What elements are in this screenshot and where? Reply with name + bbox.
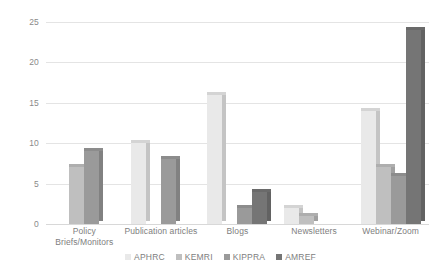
bar-chart: 0510152025 PolicyBriefs/MonitorsPublicat… — [0, 0, 441, 271]
bar-slot — [54, 22, 69, 224]
y-axis-tick-15: 15 — [29, 98, 39, 108]
bar-top-face — [69, 164, 84, 167]
bar-groups — [46, 22, 429, 224]
bar-slot — [69, 22, 84, 224]
legend-swatch-icon — [125, 254, 131, 260]
bar-top-face — [299, 213, 314, 216]
plot-area: 0510152025 — [46, 22, 429, 224]
bar-slot — [237, 22, 252, 224]
bar-slot — [391, 22, 406, 224]
bars — [352, 22, 429, 224]
x-axis-label: Webinar/Zoom — [352, 226, 429, 248]
bar-front-face — [391, 176, 406, 224]
bar-top-face — [391, 173, 406, 176]
legend-label: APHRC — [134, 252, 165, 262]
bar-slot — [376, 22, 391, 224]
bar-group — [123, 22, 200, 224]
bar-aphrc[interactable] — [131, 143, 146, 224]
legend-swatch-icon — [224, 254, 230, 260]
legend-item-amref[interactable]: AMREF — [276, 252, 316, 262]
bar-top-face — [84, 148, 99, 151]
bar-slot — [284, 22, 299, 224]
bar-slot — [84, 22, 99, 224]
x-axis-label: PolicyBriefs/Monitors — [46, 226, 123, 248]
bar-slot — [146, 22, 161, 224]
x-axis-label: Blogs — [199, 226, 276, 248]
bar-slot — [361, 22, 376, 224]
bar-group — [276, 22, 353, 224]
bar-top-face — [207, 92, 222, 95]
x-axis-label-line: Briefs/Monitors — [46, 237, 123, 248]
bar-slot — [299, 22, 314, 224]
y-axis-tick-20: 20 — [29, 57, 39, 67]
bar-kemri[interactable] — [376, 167, 391, 224]
legend-swatch-icon — [176, 254, 182, 260]
bar-kippra[interactable] — [84, 151, 99, 224]
bar-side-face — [421, 27, 425, 221]
bar-front-face — [299, 216, 314, 224]
bar-amref[interactable] — [252, 192, 267, 224]
bar-group — [46, 22, 123, 224]
bar-top-face — [361, 108, 376, 111]
bar-slot — [314, 22, 329, 224]
bar-side-face — [267, 189, 271, 221]
bar-slot — [406, 22, 421, 224]
bar-kemri[interactable] — [69, 167, 84, 224]
bar-slot — [207, 22, 222, 224]
x-axis-label-line: Blogs — [199, 226, 276, 237]
bar-slot — [222, 22, 237, 224]
bar-aphrc[interactable] — [207, 95, 222, 224]
y-axis-tick-5: 5 — [34, 179, 39, 189]
bar-kippra[interactable] — [161, 159, 176, 224]
bar-slot — [252, 22, 267, 224]
bar-kippra[interactable] — [391, 176, 406, 224]
bar-top-face — [406, 27, 421, 30]
bar-front-face — [69, 167, 84, 224]
bar-top-face — [161, 156, 176, 159]
bar-front-face — [84, 151, 99, 224]
chart-legend: APHRCKEMRIKIPPRAAMREF — [0, 252, 441, 262]
x-axis-labels: PolicyBriefs/MonitorsPublication article… — [46, 226, 429, 248]
bar-front-face — [207, 95, 222, 224]
legend-item-aphrc[interactable]: APHRC — [125, 252, 165, 262]
x-axis-label-line: Newsletters — [276, 226, 353, 237]
bar-slot — [161, 22, 176, 224]
legend-item-kemri[interactable]: KEMRI — [176, 252, 213, 262]
y-axis-tick-25: 25 — [29, 17, 39, 27]
legend-swatch-icon — [276, 254, 282, 260]
legend-label: KIPPRA — [233, 252, 265, 262]
legend-item-kippra[interactable]: KIPPRA — [224, 252, 265, 262]
bars — [199, 22, 276, 224]
bar-slot — [176, 22, 191, 224]
bar-front-face — [131, 143, 146, 224]
bar-front-face — [376, 167, 391, 224]
gridline-0: 0 — [46, 224, 429, 225]
bar-front-face — [237, 208, 252, 224]
bar-front-face — [406, 30, 421, 224]
bar-front-face — [284, 208, 299, 224]
legend-label: KEMRI — [185, 252, 213, 262]
bar-aphrc[interactable] — [361, 111, 376, 224]
bar-kippra[interactable] — [237, 208, 252, 224]
bar-top-face — [131, 140, 146, 143]
x-axis-label-line: Webinar/Zoom — [352, 226, 429, 237]
bar-amref[interactable] — [406, 30, 421, 224]
bar-kemri[interactable] — [299, 216, 314, 224]
bar-group — [352, 22, 429, 224]
bar-top-face — [284, 205, 299, 208]
x-axis-label-line: Publication articles — [123, 226, 200, 237]
x-axis-label: Publication articles — [123, 226, 200, 248]
bar-top-face — [237, 205, 252, 208]
bar-slot — [131, 22, 146, 224]
bar-aphrc[interactable] — [284, 208, 299, 224]
bar-slot — [99, 22, 114, 224]
y-axis-tick-10: 10 — [29, 138, 39, 148]
bars — [46, 22, 123, 224]
x-axis-label-line: Policy — [46, 226, 123, 237]
bar-top-face — [252, 189, 267, 192]
bar-top-face — [376, 164, 391, 167]
bars — [123, 22, 200, 224]
bar-front-face — [161, 159, 176, 224]
legend-label: AMREF — [285, 252, 316, 262]
bar-front-face — [252, 192, 267, 224]
